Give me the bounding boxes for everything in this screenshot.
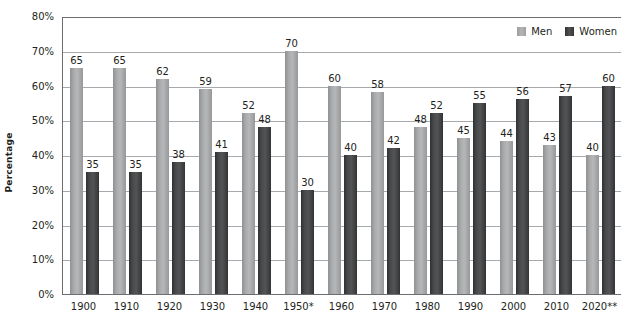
plot-area: 6535653562385941524870306040584248524555… (62, 17, 621, 295)
bar-value-label: 40 (586, 142, 599, 153)
bar-value-label: 42 (387, 135, 400, 146)
x-axis-tick: 1970 (372, 301, 397, 312)
bar-women-1950: 30 (301, 190, 314, 294)
bar-women-1960: 40 (344, 155, 357, 294)
bar-women-1970: 42 (387, 148, 400, 294)
bar-men-1920: 62 (156, 79, 169, 294)
bar-value-label: 41 (215, 139, 228, 150)
bar-group: 5842 (364, 17, 407, 294)
bar-group: 5941 (192, 17, 235, 294)
x-axis-tick: 1960 (329, 301, 354, 312)
bar-group: 7030 (278, 17, 321, 294)
bar-value-label: 59 (199, 76, 212, 87)
bar-group: 4456 (493, 17, 536, 294)
bar-value-label: 70 (285, 38, 298, 49)
bar-group: 4357 (536, 17, 579, 294)
x-axis-tick: 1980 (415, 301, 440, 312)
bar-value-label: 58 (371, 79, 384, 90)
bar-value-label: 55 (473, 90, 486, 101)
legend-label: Women (579, 26, 617, 37)
y-axis-tick: 0% (38, 290, 54, 300)
bar-group: 4060 (579, 17, 622, 294)
bar-group: 5248 (235, 17, 278, 294)
legend-item-men[interactable]: Men (517, 26, 552, 37)
y-axis-tick: 20% (32, 221, 54, 231)
bar-men-2020: 40 (586, 155, 599, 294)
chart-legend: MenWomen (517, 24, 617, 38)
bar-group: 6040 (321, 17, 364, 294)
bar-men-2000: 44 (500, 141, 513, 294)
bars-layer: 6535653562385941524870306040584248524555… (63, 17, 621, 294)
bar-women-2000: 56 (516, 99, 529, 294)
x-axis-tick: 1940 (243, 301, 268, 312)
bar-value-label: 60 (602, 73, 615, 84)
y-axis-tick: 10% (32, 255, 54, 265)
bar-group: 4852 (407, 17, 450, 294)
bar-men-1950: 70 (285, 51, 298, 294)
bar-men-1990: 45 (457, 138, 470, 294)
bar-value-label: 60 (328, 73, 341, 84)
y-axis-title: Percentage (0, 0, 18, 325)
x-axis-tick-labels: 190019101920193019401950*196019701980199… (62, 297, 621, 321)
bar-men-1940: 52 (242, 113, 255, 294)
y-axis-tick: 30% (32, 186, 54, 196)
bar-group: 4555 (450, 17, 493, 294)
bar-women-2010: 57 (559, 96, 572, 294)
bar-value-label: 48 (258, 114, 271, 125)
bar-men-1910: 65 (113, 68, 126, 294)
bar-value-label: 38 (172, 149, 185, 160)
bar-value-label: 65 (70, 55, 83, 66)
x-axis-tick: 2010 (544, 301, 569, 312)
bar-women-1980: 52 (430, 113, 443, 294)
bar-value-label: 35 (86, 159, 99, 170)
bar-value-label: 62 (156, 66, 169, 77)
x-axis-tick: 2020** (582, 301, 617, 312)
x-axis-tick: 2000 (501, 301, 526, 312)
bar-women-1940: 48 (258, 127, 271, 294)
bar-group: 6535 (106, 17, 149, 294)
bar-women-1900: 35 (86, 172, 99, 294)
y-axis-tick: 50% (32, 116, 54, 126)
y-axis-tick: 70% (32, 47, 54, 57)
x-axis-tick: 1900 (71, 301, 96, 312)
bar-men-2010: 43 (543, 145, 556, 294)
bar-value-label: 35 (129, 159, 142, 170)
bar-value-label: 57 (559, 83, 572, 94)
x-axis-tick: 1990 (458, 301, 483, 312)
y-axis-tick: 60% (32, 82, 54, 92)
x-axis-tick: 1920 (157, 301, 182, 312)
bar-value-label: 43 (543, 132, 556, 143)
bar-men-1980: 48 (414, 127, 427, 294)
bar-value-label: 30 (301, 177, 314, 188)
bar-women-1930: 41 (215, 152, 228, 294)
y-axis-tick: 80% (32, 12, 54, 22)
men-swatch-icon (517, 27, 526, 36)
bar-men-1900: 65 (70, 68, 83, 294)
x-axis-tick: 1950* (283, 301, 313, 312)
bar-value-label: 45 (457, 125, 470, 136)
bar-value-label: 65 (113, 55, 126, 66)
bar-value-label: 52 (430, 100, 443, 111)
bar-chart: Percentage 0%10%20%30%40%50%60%70%80% 65… (0, 0, 633, 325)
legend-item-women[interactable]: Women (565, 26, 617, 37)
bar-value-label: 44 (500, 128, 513, 139)
bar-women-1910: 35 (129, 172, 142, 294)
legend-label: Men (531, 26, 552, 37)
y-axis-tick: 40% (32, 151, 54, 161)
bar-value-label: 40 (344, 142, 357, 153)
bar-men-1960: 60 (328, 86, 341, 295)
bar-women-1990: 55 (473, 103, 486, 294)
y-axis-tick-labels: 0%10%20%30%40%50%60%70%80% (18, 0, 58, 325)
bar-men-1930: 59 (199, 89, 212, 294)
bar-women-1920: 38 (172, 162, 185, 294)
bar-value-label: 48 (414, 114, 427, 125)
bar-group: 6238 (149, 17, 192, 294)
x-axis-tick: 1930 (200, 301, 225, 312)
bar-women-2020: 60 (602, 86, 615, 295)
women-swatch-icon (565, 27, 574, 36)
bar-group: 6535 (63, 17, 106, 294)
x-axis-tick: 1910 (114, 301, 139, 312)
bar-value-label: 52 (242, 100, 255, 111)
bar-men-1970: 58 (371, 92, 384, 294)
bar-value-label: 56 (516, 86, 529, 97)
